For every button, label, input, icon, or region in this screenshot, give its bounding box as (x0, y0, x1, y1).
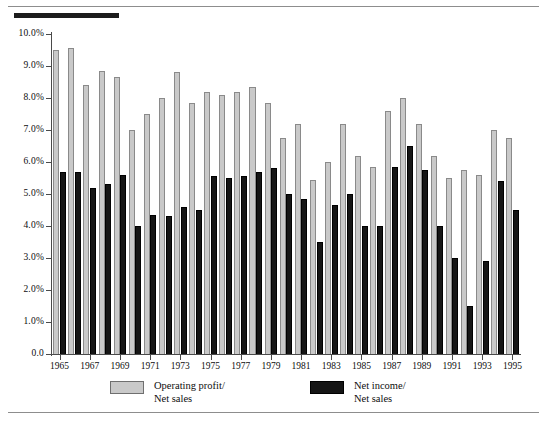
x-axis-tick-label: 1981 (285, 362, 317, 372)
bar-net-income-1973 (181, 207, 187, 354)
bar-net-income-1977 (241, 176, 247, 354)
bar-operating-profit-1982 (310, 180, 316, 354)
x-axis-tick-label: 1985 (345, 362, 377, 372)
legend-item-net-income: Net income/Net sales (310, 380, 406, 405)
x-axis-tick (211, 354, 212, 360)
bar-net-income-1989 (422, 170, 428, 354)
bar-operating-profit-1976 (219, 95, 225, 354)
x-axis-tick-label: 1973 (164, 362, 196, 372)
x-axis-tick-label: 1965 (44, 362, 76, 372)
bar-net-income-1980 (286, 194, 292, 354)
bar-operating-profit-1974 (189, 103, 195, 354)
bar-net-income-1979 (271, 168, 277, 354)
bar-operating-profit-1989 (416, 124, 422, 354)
legend-item-operating-profit: Operating profit/Net sales (110, 380, 225, 405)
bar-operating-profit-1978 (249, 87, 255, 354)
bar-operating-profit-1985 (355, 156, 361, 354)
bar-net-income-1967 (90, 188, 96, 354)
y-axis-tick-label: 6.0% (2, 157, 44, 167)
x-axis-tick-label: 1991 (436, 362, 468, 372)
x-axis-tick-label: 1983 (315, 362, 347, 372)
x-axis-tick-label: 1989 (406, 362, 438, 372)
bar-net-income-1976 (226, 178, 232, 354)
x-axis-tick-label: 1987 (376, 362, 408, 372)
y-axis-tick-label: 9.0% (2, 61, 44, 71)
y-axis-tick-label: 10.0% (2, 29, 44, 39)
bar-operating-profit-1971 (144, 114, 150, 354)
x-axis-tick (180, 354, 181, 360)
legend-swatch-icon (110, 381, 144, 394)
x-axis-tick (331, 354, 332, 360)
chart-figure: 10.0%9.0%8.0%7.0%6.0%5.0%4.0%3.0%2.0%1.0… (0, 0, 547, 426)
x-axis-tick (241, 354, 242, 360)
bar-net-income-1993 (483, 261, 489, 354)
bar-operating-profit-1980 (280, 138, 286, 354)
bar-operating-profit-1968 (99, 71, 105, 354)
bar-net-income-1985 (362, 226, 368, 354)
bar-net-income-1994 (498, 181, 504, 354)
top-rule (8, 6, 539, 7)
y-axis-tick-label: 4.0% (2, 221, 44, 231)
bar-net-income-1987 (392, 167, 398, 354)
bar-net-income-1971 (150, 215, 156, 354)
legend-label: Net income/Net sales (354, 380, 406, 405)
bar-operating-profit-1988 (400, 98, 406, 354)
x-axis-tick (392, 354, 393, 360)
legend-label-line2: Net sales (154, 393, 225, 406)
bar-operating-profit-1965 (53, 50, 59, 354)
x-axis-tick-label: 1993 (466, 362, 498, 372)
y-axis-tick-label: 5.0% (2, 189, 44, 199)
bar-net-income-1992 (467, 306, 473, 354)
bar-operating-profit-1995 (506, 138, 512, 354)
x-axis-tick (90, 354, 91, 360)
bar-net-income-1981 (301, 199, 307, 354)
legend-label-line1: Operating profit/ (154, 380, 225, 393)
bottom-rule (8, 412, 539, 413)
bar-operating-profit-1975 (204, 92, 210, 354)
bar-operating-profit-1991 (446, 178, 452, 354)
bar-operating-profit-1970 (129, 130, 135, 354)
bar-operating-profit-1967 (83, 85, 89, 354)
bar-operating-profit-1981 (295, 124, 301, 354)
x-axis-tick-label: 1969 (104, 362, 136, 372)
bar-operating-profit-1973 (174, 72, 180, 354)
y-axis-tick-label: 3.0% (2, 253, 44, 263)
bar-net-income-1990 (437, 226, 443, 354)
bar-net-income-1975 (211, 176, 217, 354)
y-axis-tick-label: 8.0% (2, 93, 44, 103)
bar-net-income-1983 (332, 205, 338, 354)
bar-operating-profit-1994 (491, 130, 497, 354)
x-axis-tick-label: 1979 (255, 362, 287, 372)
bar-operating-profit-1993 (476, 175, 482, 354)
y-axis-tick-label: 2.0% (2, 285, 44, 295)
y-axis-tick-label: 7.0% (2, 125, 44, 135)
bar-operating-profit-1990 (431, 156, 437, 354)
y-axis-tick-label: 0.0 (2, 349, 44, 359)
bar-operating-profit-1992 (461, 170, 467, 354)
x-axis-tick (60, 354, 61, 360)
x-axis-tick (452, 354, 453, 360)
bar-net-income-1968 (105, 184, 111, 354)
bar-net-income-1969 (120, 175, 126, 354)
x-axis-tick (150, 354, 151, 360)
bar-net-income-1995 (513, 210, 519, 354)
x-axis-tick-label: 1971 (134, 362, 166, 372)
legend-label-line1: Net income/ (354, 380, 406, 393)
bar-net-income-1970 (135, 226, 141, 354)
bar-operating-profit-1977 (234, 92, 240, 354)
header-accent-bar (14, 13, 119, 18)
bar-operating-profit-1972 (159, 98, 165, 354)
bar-net-income-1972 (166, 216, 172, 354)
x-axis-tick (361, 354, 362, 360)
bar-net-income-1965 (60, 172, 66, 354)
x-axis-tick-label: 1975 (195, 362, 227, 372)
x-axis-line (51, 354, 521, 355)
bar-operating-profit-1966 (68, 48, 74, 354)
x-axis-tick-label: 1995 (496, 362, 528, 372)
x-axis-tick (482, 354, 483, 360)
x-axis-tick (271, 354, 272, 360)
bar-operating-profit-1987 (385, 111, 391, 354)
bar-net-income-1991 (452, 258, 458, 354)
bar-operating-profit-1969 (114, 77, 120, 354)
x-axis-tick-label: 1967 (74, 362, 106, 372)
